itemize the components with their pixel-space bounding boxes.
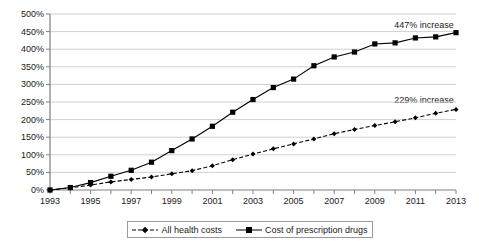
data-point-marker <box>251 152 256 157</box>
data-point-marker <box>88 180 93 185</box>
data-point-marker <box>108 174 113 179</box>
data-point-marker <box>433 34 438 39</box>
legend-item-all-health-costs[interactable]: All health costs <box>132 225 222 235</box>
data-point-marker <box>169 148 174 153</box>
legend-swatch-solid-square <box>236 225 262 235</box>
legend-label: All health costs <box>161 225 222 235</box>
data-point-marker <box>47 187 52 192</box>
data-point-marker <box>230 157 235 162</box>
legend-label: Cost of prescription drugs <box>265 225 368 235</box>
data-point-marker <box>372 41 377 46</box>
data-point-marker <box>230 110 235 115</box>
data-point-marker <box>332 131 337 136</box>
data-point-marker <box>291 141 296 146</box>
data-point-marker <box>271 146 276 151</box>
data-point-marker <box>393 40 398 45</box>
data-point-marker <box>413 35 418 40</box>
series-line <box>50 33 456 190</box>
data-point-marker <box>108 179 113 184</box>
data-point-marker <box>210 163 215 168</box>
data-point-marker <box>352 49 357 54</box>
data-point-marker <box>433 111 438 116</box>
chart-legend: All health costs Cost of prescription dr… <box>127 221 373 238</box>
data-point-marker <box>372 123 377 128</box>
data-point-marker <box>332 54 337 59</box>
data-point-marker <box>149 160 154 165</box>
data-point-marker <box>190 136 195 141</box>
data-point-marker <box>352 127 357 132</box>
data-point-marker <box>129 177 134 182</box>
legend-item-cost-of-prescription-drugs[interactable]: Cost of prescription drugs <box>236 225 368 235</box>
data-point-marker <box>311 63 316 68</box>
data-point-marker <box>129 168 134 173</box>
plot-area <box>0 0 479 241</box>
data-point-marker <box>291 77 296 82</box>
data-point-marker <box>453 30 458 35</box>
data-point-marker <box>454 107 459 112</box>
data-point-marker <box>250 97 255 102</box>
data-point-marker <box>271 85 276 90</box>
data-point-marker <box>210 124 215 129</box>
legend-swatch-dashed-diamond <box>132 225 158 235</box>
data-point-marker <box>68 185 73 190</box>
data-point-marker <box>149 174 154 179</box>
chart-container: 0%50%100%150%200%250%300%350%400%450%500… <box>0 0 479 241</box>
